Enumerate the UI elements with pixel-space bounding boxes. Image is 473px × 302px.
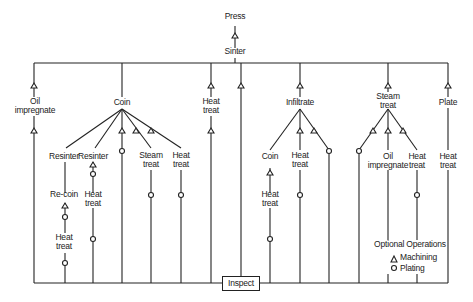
legend-triangle-icon bbox=[391, 256, 397, 262]
resinter-a-label: Resinter bbox=[49, 152, 79, 161]
heat-treat-a-label-2: treat bbox=[56, 242, 72, 251]
inspect-box: Inspect bbox=[222, 276, 260, 291]
steam-oil-label-2: impregnate bbox=[368, 161, 409, 170]
steam-treat-label-2: treat bbox=[380, 101, 396, 110]
infiltrate-label: Infiltrate bbox=[286, 98, 314, 107]
recoin-label: Re-coin bbox=[50, 190, 78, 199]
steam-treat-coin-label-2: treat bbox=[143, 160, 159, 169]
infiltrate-coin-label: Coin bbox=[262, 152, 279, 161]
infiltrate-heat-b-label-2: treat bbox=[292, 160, 308, 169]
oil-impregnate-label-2: impregnate bbox=[15, 106, 56, 115]
coin-label: Coin bbox=[114, 98, 131, 107]
resinter-b-label: Resinter bbox=[78, 152, 108, 161]
heat-treat-c-label-2: treat bbox=[173, 160, 189, 169]
triangle-icon bbox=[232, 33, 238, 38]
process-flow-diagram: Press Sinter Oil impregnate Coin Resinte… bbox=[0, 0, 473, 302]
legend-title: Optional Operations bbox=[374, 240, 446, 249]
heat-treat-label-2: treat bbox=[203, 106, 219, 115]
legend-plating-label: Plating bbox=[400, 264, 425, 273]
press-label: Press bbox=[225, 12, 246, 21]
sinter-label: Sinter bbox=[224, 47, 245, 56]
legend-machining-label: Machining bbox=[400, 253, 437, 262]
plate-label: Plate bbox=[439, 98, 457, 107]
heat-treat-b-label-2: treat bbox=[85, 199, 101, 208]
plate-heat-label-2: treat bbox=[440, 161, 456, 170]
steam-heat-label-2: treat bbox=[409, 161, 425, 170]
legend-circle-icon bbox=[392, 266, 397, 271]
infiltrate-heat-a-label-2: treat bbox=[262, 199, 278, 208]
